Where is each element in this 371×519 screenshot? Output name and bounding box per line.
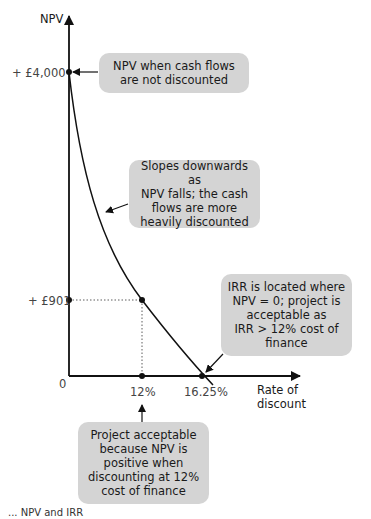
x-axis-title-line1: Rate of	[257, 383, 298, 397]
point-irr	[199, 373, 205, 379]
y-tick-901: + £901	[28, 294, 71, 308]
callout-irr-line: IRR is located where	[228, 280, 345, 294]
y-axis-title: NPV	[40, 12, 63, 26]
callout-slope-line: heavily discounted	[135, 215, 254, 229]
figure-caption: ... NPV and IRR	[8, 507, 83, 518]
point-12pct	[139, 373, 145, 379]
callout-irr-line: IRR > 12% cost of	[228, 322, 345, 336]
callout-acceptable-line: cost of finance	[88, 484, 199, 498]
callout-slope-line: flows are more	[135, 201, 254, 215]
callout-undiscounted-line: are not discounted	[113, 73, 235, 87]
origin-label: 0	[59, 377, 66, 391]
callout-acceptable-line: discounting at 12%	[88, 470, 199, 484]
callout-irr-line: acceptable as	[228, 308, 345, 322]
y-tick-4000: + £4,000	[12, 66, 66, 80]
callout-acceptable-line: because NPV is	[88, 442, 199, 456]
callout-acceptable-line: positive when	[88, 456, 199, 470]
callout-irr-line: NPV = 0; project is	[228, 294, 345, 308]
callout-undiscounted: NPV when cash flows are not discounted	[99, 53, 249, 93]
callout-slope-line: Slopes downwards as	[135, 159, 254, 187]
x-axis-title-line2: discount	[257, 397, 306, 411]
callout-irr: IRR is located where NPV = 0; project is…	[221, 274, 352, 356]
callout-irr-line: finance	[228, 336, 345, 350]
callout-undiscounted-line: NPV when cash flows	[113, 59, 235, 73]
arrow-irr	[206, 354, 223, 372]
point-npv-4000	[66, 69, 72, 75]
arrow-slope	[106, 204, 128, 212]
callout-acceptable-line: Project acceptable	[88, 428, 199, 442]
x-tick-12: 12%	[130, 385, 156, 399]
x-tick-1625: 16.25%	[184, 385, 228, 399]
callout-slope: Slopes downwards as NPV falls; the cash …	[129, 160, 260, 228]
callout-acceptable: Project acceptable because NPV is positi…	[78, 422, 209, 504]
callout-slope-line: NPV falls; the cash	[135, 187, 254, 201]
point-npv-901	[139, 297, 145, 303]
